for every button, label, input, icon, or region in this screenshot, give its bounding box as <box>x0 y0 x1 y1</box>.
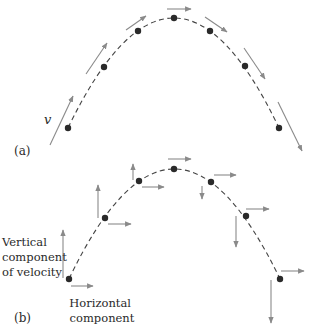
position-dot <box>171 15 177 21</box>
velocity-arrow-icon <box>126 16 146 30</box>
projectile-velocity-diagram: v (a) Vertical component of velocity Hor… <box>0 0 313 326</box>
position-dot <box>171 166 177 172</box>
trajectory-b <box>69 169 280 279</box>
vertical-component-label: Vertical component of velocity <box>1 235 70 279</box>
horizontal-component-label: Horizontal component <box>69 296 134 325</box>
panel-a: v (a) <box>14 9 302 158</box>
position-dot <box>66 276 72 282</box>
panel-a-label: (a) <box>14 144 31 158</box>
position-dot <box>242 63 248 69</box>
position-dot <box>207 28 213 34</box>
position-dot <box>135 28 141 34</box>
velocity-arrow-icon <box>50 96 73 145</box>
position-dot <box>208 179 214 185</box>
velocity-symbol: v <box>44 112 52 127</box>
position-dot <box>276 125 282 131</box>
velocity-arrow-icon <box>244 48 265 79</box>
position-dots-a <box>65 15 282 131</box>
position-dots-b <box>66 166 283 282</box>
velocity-arrows-a <box>50 9 302 151</box>
position-dot <box>136 178 142 184</box>
position-dot <box>65 125 71 131</box>
panel-b: Vertical component of velocity Horizonta… <box>1 159 304 325</box>
horizontal-component-arrows <box>71 159 304 286</box>
panel-b-label: (b) <box>14 311 31 325</box>
trajectory-a <box>68 18 279 128</box>
position-dot <box>277 276 283 282</box>
position-dot <box>102 215 108 221</box>
position-dot <box>101 64 107 70</box>
position-dot <box>243 213 249 219</box>
